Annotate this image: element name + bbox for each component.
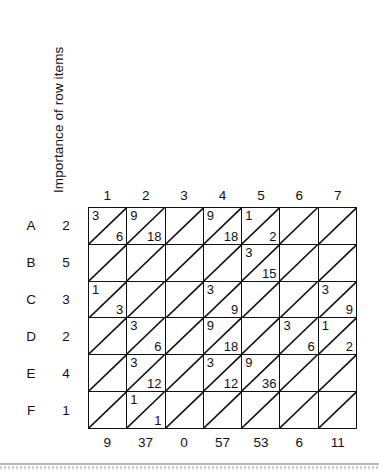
matrix-cell-c3[interactable] [166, 282, 204, 318]
column-header-6: 6 [280, 186, 318, 206]
matrix-cell-f1[interactable] [89, 392, 127, 428]
cell-strength-value: 9 [207, 318, 214, 333]
cell-diagonal-icon [89, 392, 126, 428]
matrix-cell-a5[interactable]: 12 [242, 208, 280, 244]
cell-strength-value: 1 [92, 282, 99, 297]
matrix-cell-e4[interactable]: 312 [204, 355, 242, 391]
matrix-cell-c1[interactable]: 13 [89, 282, 127, 318]
matrix-cell-b7[interactable] [319, 245, 356, 281]
matrix-cell-d5[interactable] [242, 318, 280, 354]
cell-diagonal-icon [280, 282, 317, 318]
cell-weighted-value: 1 [154, 413, 161, 428]
matrix-cell-e3[interactable] [166, 355, 204, 391]
matrix-cell-a7[interactable] [319, 208, 356, 244]
column-totals-row: 93705753611 [88, 433, 357, 453]
row-letter-e: E [16, 355, 46, 392]
cell-strength-value: 1 [130, 392, 137, 407]
column-total-6: 6 [280, 433, 318, 453]
page-divider-rule [0, 463, 379, 465]
vertical-axis-label: Importance of row items [47, 18, 71, 193]
matrix-cell-d4[interactable]: 918 [204, 318, 242, 354]
matrix-cell-e7[interactable] [319, 355, 356, 391]
cell-diagonal-icon [204, 392, 241, 428]
matrix-cell-e5[interactable]: 936 [242, 355, 280, 391]
matrix-cell-d2[interactable]: 36 [127, 318, 165, 354]
cell-diagonal-icon [242, 282, 279, 318]
column-header-7: 7 [319, 186, 357, 206]
matrix-cell-e2[interactable]: 312 [127, 355, 165, 391]
matrix-cell-c2[interactable] [127, 282, 165, 318]
row-importance-b: 5 [52, 244, 80, 281]
matrix-cell-a3[interactable] [166, 208, 204, 244]
cell-weighted-value: 18 [224, 339, 238, 354]
cell-diagonal-icon [89, 355, 126, 391]
cell-weighted-value: 12 [224, 376, 238, 391]
cell-weighted-value: 3 [116, 302, 123, 317]
row-importance-c: 3 [52, 281, 80, 318]
matrix-cell-f7[interactable] [319, 392, 356, 428]
cell-diagonal-icon [242, 392, 279, 428]
cell-diagonal-icon [89, 318, 126, 354]
cell-weighted-value: 12 [147, 376, 161, 391]
cell-weighted-value: 2 [269, 229, 276, 244]
cell-diagonal-icon [280, 208, 317, 244]
cell-weighted-value: 9 [346, 302, 353, 317]
matrix-cell-e1[interactable] [89, 355, 127, 391]
column-header-1: 1 [88, 186, 126, 206]
matrix-cell-b4[interactable] [204, 245, 242, 281]
matrix-cell-f4[interactable] [204, 392, 242, 428]
cell-strength-value: 3 [207, 282, 214, 297]
cell-weighted-value: 15 [262, 266, 276, 281]
matrix-cell-d6[interactable]: 36 [280, 318, 318, 354]
cell-strength-value: 1 [245, 208, 252, 223]
matrix-cell-d7[interactable]: 12 [319, 318, 356, 354]
cell-strength-value: 3 [207, 355, 214, 370]
matrix-cell-b1[interactable] [89, 245, 127, 281]
cell-weighted-value: 18 [224, 229, 238, 244]
cell-diagonal-icon [127, 282, 164, 318]
cell-weighted-value: 6 [154, 339, 161, 354]
cell-strength-value: 3 [130, 355, 137, 370]
cell-strength-value: 9 [130, 208, 137, 223]
cell-diagonal-icon [166, 208, 203, 244]
matrix-row-f: 11 [89, 392, 356, 428]
cell-strength-value: 3 [245, 245, 252, 260]
matrix-cell-f2[interactable]: 11 [127, 392, 165, 428]
cell-diagonal-icon [280, 245, 317, 281]
cell-weighted-value: 6 [307, 339, 314, 354]
row-importance-a: 2 [52, 207, 80, 244]
matrix-cell-f6[interactable] [280, 392, 318, 428]
matrix-cell-f5[interactable] [242, 392, 280, 428]
matrix-row-c: 133939 [89, 282, 356, 319]
column-total-3: 0 [165, 433, 203, 453]
matrix-cell-f3[interactable] [166, 392, 204, 428]
matrix-cell-b5[interactable]: 315 [242, 245, 280, 281]
cell-diagonal-icon [242, 318, 279, 354]
column-total-4: 57 [203, 433, 241, 453]
page-divider-rule-secondary [0, 466, 379, 469]
cell-weighted-value: 9 [231, 302, 238, 317]
matrix-cell-b2[interactable] [127, 245, 165, 281]
matrix-cell-d1[interactable] [89, 318, 127, 354]
cell-diagonal-icon [319, 245, 356, 281]
row-importance-f: 1 [52, 392, 80, 429]
cell-diagonal-icon [166, 355, 203, 391]
row-importance-d: 2 [52, 318, 80, 355]
matrix-cell-c6[interactable] [280, 282, 318, 318]
matrix-cell-c4[interactable]: 39 [204, 282, 242, 318]
matrix-cell-b3[interactable] [166, 245, 204, 281]
qfd-relationship-matrix-figure: Importance of row items 1234567 ABCDEF 2… [0, 0, 379, 475]
matrix-cell-c5[interactable] [242, 282, 280, 318]
matrix-cell-c7[interactable]: 39 [319, 282, 356, 318]
cell-weighted-value: 6 [116, 229, 123, 244]
matrix-cell-a2[interactable]: 918 [127, 208, 165, 244]
matrix-cell-d3[interactable] [166, 318, 204, 354]
matrix-cell-a1[interactable]: 36 [89, 208, 127, 244]
row-importance-e: 4 [52, 355, 80, 392]
column-total-2: 37 [126, 433, 164, 453]
matrix-cell-e6[interactable] [280, 355, 318, 391]
matrix-cell-a4[interactable]: 918 [204, 208, 242, 244]
matrix-cell-a6[interactable] [280, 208, 318, 244]
matrix-cell-b6[interactable] [280, 245, 318, 281]
matrix-row-a: 3691891812 [89, 208, 356, 245]
